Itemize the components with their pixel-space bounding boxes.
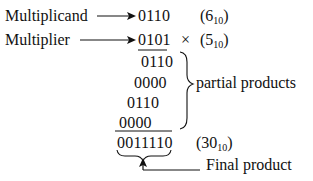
result-underbrace-icon: [117, 150, 171, 161]
multiplicand-arrow-icon: [97, 12, 136, 20]
multiplier-arrow-icon: [80, 36, 136, 44]
final-product-arrow-icon: [139, 158, 200, 170]
partial-products-brace-icon: [180, 52, 193, 129]
diagram-lines: [0, 0, 313, 181]
